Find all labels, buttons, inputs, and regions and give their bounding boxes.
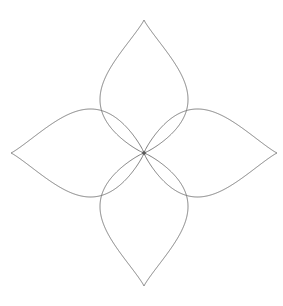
petal-up: [100, 20, 188, 153]
rose-curve-svg: [0, 0, 283, 306]
petal-right: [144, 109, 277, 197]
curve-center-point: [142, 151, 146, 155]
petal-left: [11, 109, 144, 197]
figure-canvas: [0, 0, 283, 306]
petal-down: [100, 153, 188, 286]
